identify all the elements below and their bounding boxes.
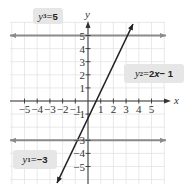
y-tick-label: 4	[80, 43, 86, 55]
label-value: 5	[52, 11, 57, 22]
y-tick-label: −4	[73, 147, 85, 159]
label-y3: y3 = 5	[33, 8, 63, 24]
x-tick-label: 5	[149, 103, 155, 115]
x-tick-label: 3	[123, 103, 129, 115]
y-tick-label: −3	[73, 134, 85, 146]
y-tick-label: 1	[80, 82, 86, 94]
line-arrow-icon	[160, 33, 166, 38]
x-tick-label: 2	[111, 103, 117, 115]
x-tick-label: 4	[136, 103, 142, 115]
label-y1: y1 = −3	[13, 150, 57, 169]
x-tick-label: −2	[57, 103, 69, 115]
x-tick-label: −3	[44, 103, 56, 115]
x-axis-label: x	[173, 94, 179, 106]
y-tick-label: −5	[73, 161, 85, 173]
y-tick-label: 3	[80, 56, 86, 68]
x-tick-label: −5	[19, 103, 31, 115]
label-value: −3	[37, 154, 48, 165]
x-tick-label: −4	[31, 103, 43, 115]
y-tick-label: 5	[80, 30, 86, 42]
label-y2: y2 = 2x − 1	[124, 64, 184, 83]
y-tick-label: −1	[73, 108, 85, 120]
line-arrow-icon	[10, 138, 16, 143]
y-axis-label: y	[84, 8, 90, 20]
label-tail: − 1	[160, 68, 173, 79]
line-arrow-icon	[160, 138, 166, 143]
y-tick-label: 2	[80, 69, 86, 81]
x-axis-arrow-icon	[164, 99, 171, 104]
x-tick-label: 1	[98, 103, 104, 115]
line-arrow-icon	[10, 33, 16, 38]
